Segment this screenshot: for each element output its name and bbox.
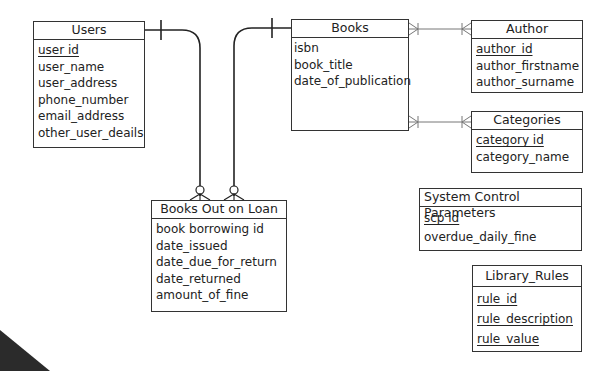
entity-books-out-on-loan[interactable]: Books Out on Loan book borrowing id date… — [151, 200, 287, 312]
entity-title: Library_Rules — [473, 266, 581, 287]
attribute: category_name — [476, 149, 582, 166]
attribute-primary-key: rule_value — [477, 329, 581, 349]
entity-categories[interactable]: Categories category id category_name — [471, 111, 583, 173]
attribute: email_address — [38, 108, 144, 125]
users-loan-relationship — [145, 20, 210, 200]
attribute: phone_number — [38, 92, 144, 109]
entity-title: System Control Parameters — [420, 189, 581, 207]
attribute: book borrowing id — [156, 221, 286, 238]
entity-title: Categories — [472, 112, 582, 130]
books-categories-relationship — [409, 116, 471, 128]
attribute: amount_of_fine — [156, 287, 286, 304]
books-author-relationship — [409, 23, 471, 35]
attribute: book_title — [294, 57, 408, 74]
entity-author[interactable]: Author author_id author_firstname author… — [471, 20, 583, 93]
attribute: date_due_for_return — [156, 254, 286, 271]
entity-title: Author — [472, 21, 582, 39]
entity-users[interactable]: Users user id user_name user_address pho… — [33, 21, 145, 148]
attribute: author_firstname — [476, 58, 582, 75]
attribute: author_surname — [476, 74, 582, 91]
attribute: user_name — [38, 59, 144, 76]
entity-books[interactable]: Books isbn book_title date_of_publicatio… — [291, 19, 409, 131]
attribute: user_address — [38, 75, 144, 92]
attribute: other_user_deails — [38, 125, 144, 142]
attribute: overdue_daily_fine — [424, 228, 581, 247]
attribute: date_returned — [156, 271, 286, 288]
attribute-primary-key: rule_id — [477, 289, 581, 309]
attribute-primary-key: scp id — [424, 209, 581, 228]
books-loan-relationship — [224, 18, 291, 200]
attribute-primary-key: user id — [38, 42, 144, 59]
attribute: isbn — [294, 40, 408, 57]
attribute-primary-key: rule_description — [477, 309, 581, 329]
entity-title: Users — [34, 22, 144, 40]
entity-system-control-parameters[interactable]: System Control Parameters scp id overdue… — [419, 188, 582, 251]
attribute: date_issued — [156, 238, 286, 255]
attribute-primary-key: author_id — [476, 41, 582, 58]
attribute: date_of_publication — [294, 73, 408, 90]
entity-title: Books — [292, 20, 408, 38]
entity-library-rules[interactable]: Library_Rules rule_id rule_description r… — [472, 265, 582, 352]
attribute-primary-key: category id — [476, 132, 582, 149]
entity-title: Books Out on Loan — [152, 201, 286, 219]
